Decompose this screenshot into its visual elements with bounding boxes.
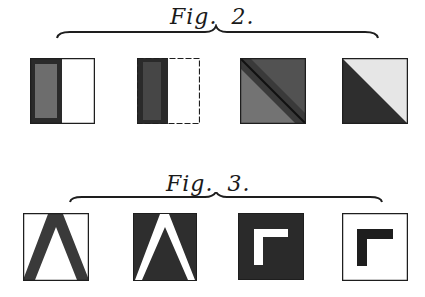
figure-2-panel-d [342,58,408,124]
figure-3-panel-c [238,213,304,280]
figure-3-panel-d [342,213,408,281]
figure-2-brace [0,24,425,44]
figure-2-panel-b [137,58,200,124]
figure-2-panel-a [30,58,95,124]
figure-3-panel-b [133,213,197,281]
figure-3-panel-a [23,213,89,281]
figure-3-brace [0,192,425,208]
figure-2-panel-c [240,58,306,124]
